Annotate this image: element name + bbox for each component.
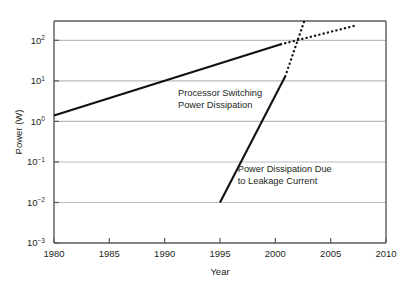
plot-frame xyxy=(54,21,386,243)
x-tick-label: 2010 xyxy=(375,248,396,259)
leakage-annotation: Power Dissipation Dueto Leakage Current xyxy=(238,164,332,186)
series-line xyxy=(285,22,304,77)
y-tick-label: 102 xyxy=(31,34,46,46)
x-tick-label: 1990 xyxy=(154,248,175,259)
y-tick-label: 100 xyxy=(31,115,46,127)
y-axis-tick-labels: 10210110010−110−210−3 xyxy=(27,34,45,248)
chart-canvas: 10210110010−110−210−3 198019851990199520… xyxy=(0,0,410,297)
x-tick-label: 2005 xyxy=(320,248,341,259)
y-tick-label: 10−2 xyxy=(27,196,45,208)
x-axis-tick-labels: 1980198519901995200020052010 xyxy=(43,248,396,259)
gridlines xyxy=(54,40,386,202)
x-tick-label: 1995 xyxy=(209,248,230,259)
power-dissipation-chart: 10210110010−110−210−3 198019851990199520… xyxy=(0,0,410,297)
y-axis-title: Power (W) xyxy=(13,110,24,155)
y-tick-label: 10−1 xyxy=(27,156,45,168)
x-tick-label: 2000 xyxy=(265,248,286,259)
x-tick-label: 1980 xyxy=(43,248,64,259)
y-tick-label: 10−3 xyxy=(27,237,45,249)
switching-annotation: Processor SwitchingPower Dissipation xyxy=(178,88,262,110)
y-tick-label: 101 xyxy=(31,75,46,87)
x-tick-label: 1985 xyxy=(99,248,120,259)
x-axis-title: Year xyxy=(210,266,229,277)
axis-ticks xyxy=(54,40,386,243)
series-line xyxy=(281,26,355,45)
